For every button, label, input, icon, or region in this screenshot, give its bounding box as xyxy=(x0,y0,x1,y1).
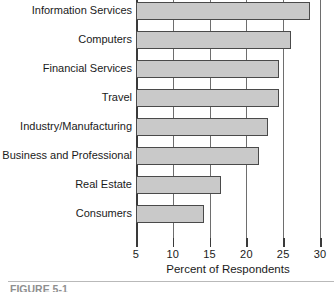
x-tick-5 xyxy=(136,238,138,247)
gridline-30 xyxy=(320,0,321,238)
x-tick-label-20: 20 xyxy=(226,248,266,260)
x-tick-label-15: 15 xyxy=(190,248,230,260)
category-label-travel: Travel xyxy=(2,91,136,103)
category-label-real-estate: Real Estate xyxy=(2,178,136,190)
bar-business-and-professional xyxy=(136,147,259,165)
bar-consumers xyxy=(136,205,204,223)
x-tick-15 xyxy=(210,238,212,247)
x-tick-25 xyxy=(283,238,285,247)
x-tick-label-10: 10 xyxy=(153,248,193,260)
x-tick-label-25: 25 xyxy=(263,248,303,260)
bar-industry-manufacturing xyxy=(136,118,268,136)
category-label-computers: Computers xyxy=(2,33,136,45)
category-label-consumers: Consumers xyxy=(2,207,136,219)
x-tick-30 xyxy=(320,238,322,247)
x-tick-label-30: 30 xyxy=(300,248,334,260)
bar-information-services xyxy=(136,2,310,20)
plot-area: 5 10 15 20 25 30 Percent of Respondents xyxy=(136,0,320,238)
category-label-business-and-professional: Business and Professional xyxy=(2,149,136,161)
caption-divider xyxy=(8,281,334,282)
x-tick-20 xyxy=(246,238,248,247)
category-label-financial-services: Financial Services xyxy=(2,62,136,74)
category-label-information-services: Information Services xyxy=(2,4,136,16)
x-axis-title: Percent of Respondents xyxy=(136,263,320,275)
bar-travel xyxy=(136,89,279,107)
bar-real-estate xyxy=(136,176,221,194)
bar-computers xyxy=(136,31,291,49)
x-tick-10 xyxy=(173,238,175,247)
figure-caption: FIGURE 5-1 xyxy=(10,283,68,292)
category-label-industry-manufacturing: Industry/Manufacturing xyxy=(2,120,136,132)
x-tick-label-5: 5 xyxy=(116,248,156,260)
category-label-column: Information Services Computers Financial… xyxy=(0,0,136,238)
bar-financial-services xyxy=(136,60,279,78)
figure-panel: Information Services Computers Financial… xyxy=(0,0,334,292)
